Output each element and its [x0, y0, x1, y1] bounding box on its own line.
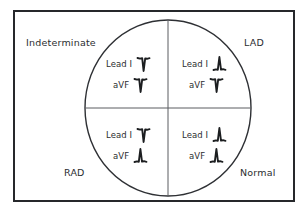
upper-right-avf-row: aVF [189, 76, 224, 93]
lower-left-lead-one-row: Lead I [106, 126, 151, 143]
quadrant-label-normal: Normal [240, 167, 276, 178]
qrs-positive-icon [212, 55, 227, 72]
qrs-negative-icon [136, 126, 151, 143]
qrs-positive-icon [209, 147, 224, 164]
qrs-positive-icon [133, 147, 148, 164]
upper-left-lead-one-row: Lead I [106, 55, 151, 72]
qrs-negative-icon [209, 76, 224, 93]
lead-label: aVF [113, 151, 129, 161]
lead-label: aVF [189, 80, 205, 90]
ecg-axis-quadrant-diagram: Indeterminate LAD RAD Normal Lead I aVF … [0, 0, 307, 220]
quadrant-label-rad: RAD [64, 167, 85, 178]
lead-label: Lead I [182, 59, 208, 69]
lower-right-lead-one-row: Lead I [182, 126, 227, 143]
lead-label: aVF [113, 80, 129, 90]
qrs-negative-icon [133, 76, 148, 93]
qrs-positive-icon [212, 126, 227, 143]
lower-right-avf-row: aVF [189, 147, 224, 164]
quadrant-label-indeterminate: Indeterminate [26, 37, 96, 48]
qrs-negative-icon [136, 55, 151, 72]
lead-label: Lead I [106, 130, 132, 140]
lead-label: aVF [189, 151, 205, 161]
lower-left-avf-row: aVF [113, 147, 148, 164]
lead-label: Lead I [182, 130, 208, 140]
lead-label: Lead I [106, 59, 132, 69]
upper-right-lead-one-row: Lead I [182, 55, 227, 72]
upper-left-avf-row: aVF [113, 76, 148, 93]
quadrant-label-lad: LAD [244, 37, 264, 48]
